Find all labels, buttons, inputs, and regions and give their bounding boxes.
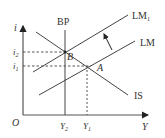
y2-tick-label: Y2 [60, 121, 68, 132]
is-curve [36, 32, 128, 95]
is-label: IS [134, 90, 143, 101]
lm1-curve [33, 15, 128, 72]
origin-label: O [12, 117, 19, 128]
y1-tick-label: Y1 [83, 121, 91, 132]
bp-label: BP [57, 16, 70, 27]
shift-arrow-icon [104, 34, 112, 50]
is-lm-bp-diagram: BP LM1 LM IS B A i Y O i2 i1 Y2 Y1 [0, 0, 165, 138]
i2-tick-label: i2 [13, 47, 19, 58]
point-b-label: B [67, 51, 73, 62]
y-axis-label: i [14, 22, 17, 33]
lm1-label: LM1 [132, 10, 150, 22]
x-axis-label: Y [142, 121, 149, 132]
point-a-label: A [96, 62, 104, 73]
i1-tick-label: i1 [13, 61, 19, 72]
lm-label: LM [140, 37, 155, 48]
point-b-marker [64, 51, 67, 54]
